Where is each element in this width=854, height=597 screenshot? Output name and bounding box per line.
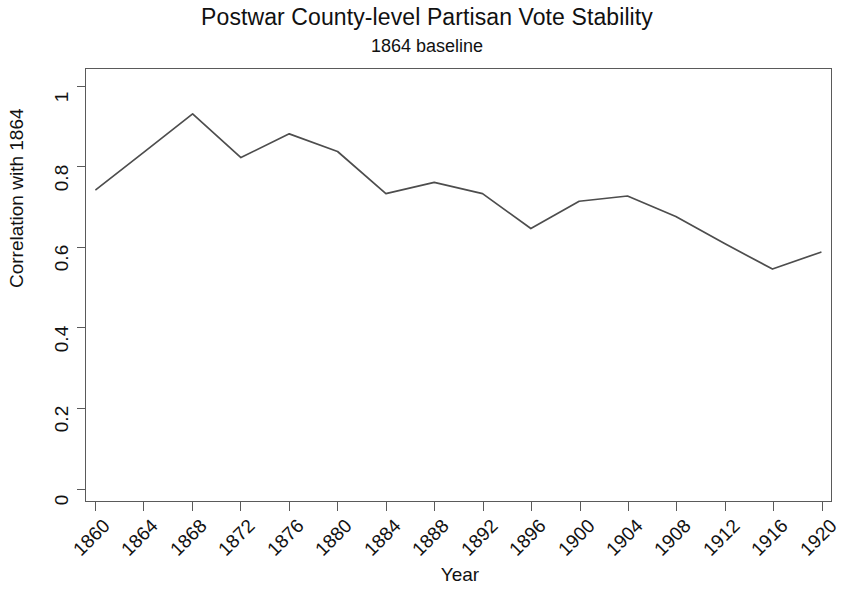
x-axis-tick-label: 1892 <box>447 515 502 570</box>
x-axis-tick-label: 1868 <box>156 515 211 570</box>
y-axis-tick <box>77 489 85 490</box>
x-axis-tick <box>143 502 144 511</box>
x-axis-tick <box>628 502 629 511</box>
x-axis-tick-label: 1896 <box>495 515 550 570</box>
x-axis-tick <box>580 502 581 511</box>
y-axis-tick-label-text: 0.4 <box>51 326 73 352</box>
x-axis-tick <box>483 502 484 511</box>
x-axis: Year 18601864186818721876188018841888189… <box>0 502 854 597</box>
x-axis-tick-label: 1872 <box>205 515 260 570</box>
x-axis-title: Year <box>0 564 854 586</box>
x-axis-tick <box>337 502 338 511</box>
x-axis-tick <box>531 502 532 511</box>
y-axis-tick-label: 0.4 <box>62 326 84 352</box>
x-axis-tick <box>725 502 726 511</box>
x-axis-tick <box>192 502 193 511</box>
x-axis-tick <box>822 502 823 511</box>
x-axis-tick-label: 1884 <box>350 515 405 570</box>
x-axis-tick-label: 1864 <box>108 515 163 570</box>
x-axis-tick <box>773 502 774 511</box>
y-axis-tick-label-text: 0.8 <box>51 164 73 190</box>
y-axis-tick <box>77 86 85 87</box>
y-axis-tick-label: 1 <box>62 92 84 103</box>
y-axis-tick-label: 0.6 <box>62 245 84 271</box>
x-axis-tick-label: 1908 <box>641 515 696 570</box>
x-axis-tick-label: 1880 <box>302 515 357 570</box>
x-axis-tick <box>240 502 241 511</box>
y-axis-title: Correlation with 1864 <box>6 108 28 288</box>
x-axis-tick-label: 1916 <box>738 515 793 570</box>
page-title: Postwar County-level Partisan Vote Stabi… <box>0 2 854 32</box>
x-axis-tick-label: 1920 <box>786 515 841 570</box>
data-series-line <box>86 69 831 501</box>
x-axis-tick-label: 1860 <box>59 515 114 570</box>
chart-subtitle: 1864 baseline <box>0 34 854 58</box>
x-axis-tick-label: 1900 <box>544 515 599 570</box>
y-axis-tick-label: 0.2 <box>62 406 84 432</box>
y-axis-tick-label-text: 0.6 <box>51 245 73 271</box>
x-axis-tick <box>676 502 677 511</box>
y-axis-tick-label: 0.8 <box>62 164 84 190</box>
x-axis-tick-label: 1876 <box>253 515 308 570</box>
x-axis-tick <box>95 502 96 511</box>
y-axis-tick-label-text: 0.2 <box>51 406 73 432</box>
chart-figure: Postwar County-level Partisan Vote Stabi… <box>0 0 854 597</box>
x-axis-tick-label: 1904 <box>592 515 647 570</box>
x-axis-tick-label: 1912 <box>689 515 744 570</box>
title-block: Postwar County-level Partisan Vote Stabi… <box>0 2 854 58</box>
x-axis-tick <box>386 502 387 511</box>
x-axis-tick <box>434 502 435 511</box>
y-axis-tick-label-text: 1 <box>51 92 73 103</box>
plot-area <box>85 68 832 502</box>
x-axis-tick-label: 1888 <box>399 515 454 570</box>
x-axis-tick <box>289 502 290 511</box>
